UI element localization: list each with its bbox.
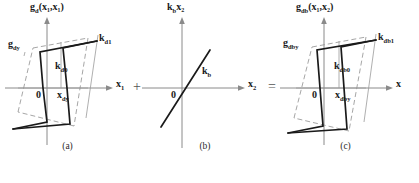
y-axis-arrowhead — [44, 17, 50, 24]
panel-a-plot — [0, 0, 135, 155]
x-axis-label: x1 — [116, 79, 124, 89]
panel-c: gdb(x₁,x₂) gdby kdb1 kdb0 0 xdby x (c) — [272, 0, 419, 155]
outer-right-guide — [364, 34, 376, 122]
panel-a: gd(x₁,x₁) gdy kd1 kd0 0 xdy x1 (a) — [0, 0, 135, 155]
skeleton-right-edge — [74, 38, 88, 126]
panel-c-title: gdb(x₁,x₂) — [296, 2, 333, 12]
panel-a-title: gd(x₁,x₁) — [30, 2, 64, 12]
yield-displacement-label: xdy — [57, 90, 69, 100]
x-axis-label: x — [396, 79, 401, 89]
panel-b-caption: (b) — [140, 141, 270, 151]
post-yield-slope-label: kd1 — [99, 33, 111, 43]
initial-slope-label: kdb0 — [334, 61, 350, 71]
linear-stiffness-label: kb — [202, 66, 211, 76]
y-axis-arrowhead — [321, 17, 327, 24]
skeleton-left-edge — [294, 47, 312, 118]
yield-stress-label: gdy — [8, 39, 20, 49]
outer-left-guide — [24, 52, 25, 56]
x-axis-arrowhead — [386, 85, 393, 91]
x-axis-label: x2 — [248, 79, 256, 89]
panel-b: kbx₂ kb 0 x2 (b) — [140, 0, 270, 155]
post-yield-slope-label: kdb1 — [378, 32, 394, 42]
origin-label: 0 — [312, 90, 317, 100]
initial-slope-label: kd0 — [55, 61, 67, 71]
origin-label: 0 — [171, 90, 176, 100]
yield-stress-label: gdby — [283, 38, 298, 48]
skeleton-top-edge — [33, 38, 88, 48]
origin-label: 0 — [36, 90, 41, 100]
outer-right-guide — [86, 35, 98, 118]
skeleton-right-edge — [349, 37, 366, 131]
hysteresis-loop-upper — [13, 41, 97, 129]
yield-displacement-label: xdby — [335, 90, 350, 100]
panel-a-caption: (a) — [0, 141, 135, 151]
y-axis-arrowhead — [179, 17, 185, 24]
x-axis-arrowhead — [106, 85, 113, 91]
hysteresis-decomposition-figure: gd(x₁,x₁) gdy kd1 kd0 0 xdy x1 (a) + kbx… — [0, 0, 419, 183]
x-axis-arrowhead — [238, 85, 245, 91]
panel-b-title: kbx₂ — [167, 2, 184, 12]
skeleton-left-edge — [18, 48, 33, 112]
hysteresis-loop-lower — [13, 41, 97, 129]
panel-c-caption: (c) — [272, 141, 419, 151]
